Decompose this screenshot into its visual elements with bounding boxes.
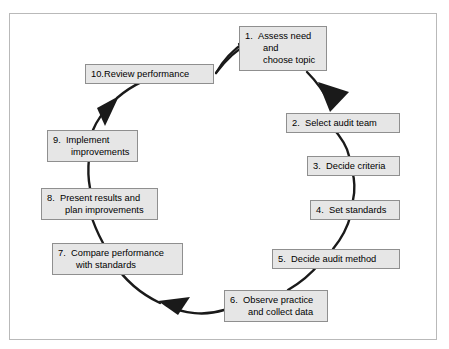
step-6-number: 6. <box>230 294 243 306</box>
step-4-text-1: Set standards <box>329 205 386 215</box>
step-1-line-3: choose topic <box>245 54 321 66</box>
step-8-line-1: 8.Present results and <box>47 192 152 204</box>
step-5-text-1: Decide audit method <box>291 254 376 264</box>
step-7-number: 7. <box>58 247 71 259</box>
diagram-page: 1.Assess need and choose topic 2.Select … <box>0 0 449 349</box>
step-7-text-1: Compare performance <box>71 248 164 258</box>
step-6-line-2: and collect data <box>230 306 322 318</box>
step-9-line-2: improvements <box>53 146 132 158</box>
step-3-number: 3. <box>313 160 326 172</box>
step-box-3[interactable]: 3.Decide criteria <box>307 156 400 176</box>
step-box-6[interactable]: 6.Observe practice and collect data <box>224 290 328 322</box>
step-2-line-1: 2.Select audit team <box>292 117 394 129</box>
step-1-text-1: Assess need <box>258 31 311 41</box>
step-10-text-1: Review performance <box>104 69 189 79</box>
step-box-8[interactable]: 8.Present results and plan improvements <box>41 188 158 220</box>
arrowhead-1-to-2 <box>318 82 349 112</box>
step-box-9[interactable]: 9.Implement improvements <box>47 130 138 162</box>
step-7-line-2: with standards <box>58 259 177 271</box>
step-6-line-1: 6.Observe practice <box>230 294 322 306</box>
step-box-2[interactable]: 2.Select audit team <box>286 113 400 133</box>
step-6-text-1: Observe practice <box>243 295 313 305</box>
step-3-text-1: Decide criteria <box>326 161 385 171</box>
step-9-line-1: 9.Implement <box>53 134 132 146</box>
step-9-number: 9. <box>53 134 66 146</box>
step-1-number: 1. <box>245 30 258 42</box>
step-box-1[interactable]: 1.Assess need and choose topic <box>239 26 327 71</box>
step-4-line-1: 4.Set standards <box>316 204 394 216</box>
step-10-number: 10. <box>91 68 104 80</box>
step-9-text-1: Implement <box>66 135 109 145</box>
step-1-line-1: 1.Assess need <box>245 30 321 42</box>
step-3-line-1: 3.Decide criteria <box>313 160 394 172</box>
arrowhead-9-to-10 <box>97 96 119 126</box>
step-5-line-1: 5.Decide audit method <box>278 253 394 265</box>
step-box-4[interactable]: 4.Set standards <box>310 200 400 220</box>
step-box-7[interactable]: 7.Compare performance with standards <box>52 243 183 275</box>
step-box-10[interactable]: 10.Review performance <box>85 64 214 84</box>
step-7-line-1: 7.Compare performance <box>58 247 177 259</box>
step-4-number: 4. <box>316 204 329 216</box>
step-2-text-1: Select audit team <box>305 118 377 128</box>
step-box-5[interactable]: 5.Decide audit method <box>272 249 400 269</box>
step-8-line-2: plan improvements <box>47 204 152 216</box>
step-8-text-1: Present results and <box>60 193 140 203</box>
step-10-line-1: 10.Review performance <box>91 68 208 80</box>
step-8-number: 8. <box>47 192 60 204</box>
step-5-number: 5. <box>278 253 291 265</box>
arc-8-to-9 <box>88 158 90 188</box>
step-1-line-2: and <box>245 42 321 54</box>
step-2-number: 2. <box>292 117 305 129</box>
